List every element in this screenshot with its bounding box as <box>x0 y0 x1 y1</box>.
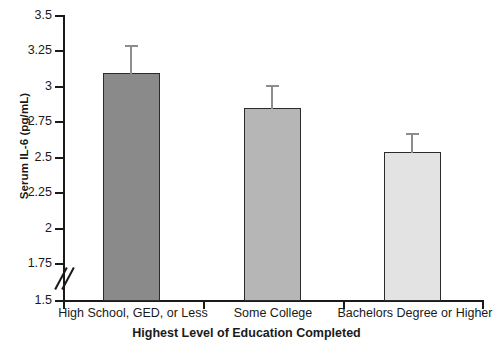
error-bar-stem-high-school <box>130 45 132 74</box>
y-tick-3.25 <box>55 50 65 52</box>
y-tick-label-2.75: 2.75 <box>0 115 52 127</box>
bar-bachelors-degree <box>384 152 441 301</box>
y-tick-2.5 <box>55 157 65 159</box>
y-tick-2 <box>55 228 65 230</box>
y-tick-label-3.5: 3.5 <box>0 9 52 21</box>
error-bar-cap-bachelors-degree <box>406 133 419 135</box>
x-label-high-school: High School, GED, or Less <box>58 306 208 321</box>
y-tick-label-3: 3 <box>0 80 52 92</box>
y-tick-3 <box>55 86 65 88</box>
y-tick-2.75 <box>55 121 65 123</box>
bar-high-school <box>103 73 160 301</box>
error-bar-cap-some-college <box>266 85 279 87</box>
error-bar-stem-bachelors-degree <box>411 133 413 153</box>
y-tick-label-2: 2 <box>0 222 52 234</box>
y-tick-2.25 <box>55 192 65 194</box>
bar-chart: Serum IL-6 (pg/mL) 3.5 3.25 3 2.75 2.5 2… <box>0 0 493 347</box>
y-tick-3.5 <box>55 15 65 17</box>
y-axis-break-icon <box>54 264 76 294</box>
x-label-some-college: Some College <box>213 306 333 321</box>
y-tick-label-1.5: 1.5 <box>0 294 52 306</box>
error-bar-stem-some-college <box>271 85 273 109</box>
x-axis-title: Highest Level of Education Completed <box>0 326 493 340</box>
y-tick-label-2.5: 2.5 <box>0 151 52 163</box>
bar-some-college <box>244 108 301 301</box>
y-tick-label-1.75: 1.75 <box>0 257 52 269</box>
y-tick-label-2.25: 2.25 <box>0 186 52 198</box>
y-tick-label-3.25: 3.25 <box>0 44 52 56</box>
error-bar-cap-high-school <box>125 45 138 47</box>
x-label-bachelors-degree: Bachelors Degree or Higher <box>336 306 493 321</box>
